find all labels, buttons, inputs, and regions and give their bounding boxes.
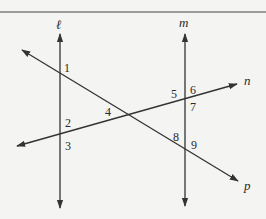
angle-7: 7 <box>190 100 196 114</box>
angle-2: 2 <box>65 116 71 130</box>
label-p: p <box>243 178 251 193</box>
angle-8: 8 <box>173 130 179 144</box>
angle-3: 3 <box>65 139 71 153</box>
angle-6: 6 <box>190 83 196 97</box>
label-n: n <box>244 73 251 88</box>
angle-1: 1 <box>64 61 70 75</box>
transversal-diagram: ℓ m n p 1 2 3 4 5 6 7 8 9 <box>0 0 266 219</box>
label-m: m <box>179 15 188 30</box>
angle-4: 4 <box>105 105 111 119</box>
line-p <box>22 50 238 181</box>
line-n <box>17 84 237 146</box>
angle-9: 9 <box>191 138 197 152</box>
angle-5: 5 <box>171 87 177 101</box>
label-l: ℓ <box>56 17 62 32</box>
